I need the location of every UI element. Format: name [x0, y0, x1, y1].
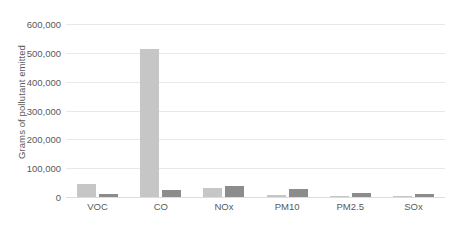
bar: [415, 194, 434, 197]
x-tick-label: PM10: [256, 201, 319, 217]
bar-group: [382, 24, 445, 197]
bar: [330, 196, 349, 197]
x-tick-label: CO: [129, 201, 192, 217]
bar: [162, 190, 181, 197]
bar-group: [66, 24, 129, 197]
bar: [99, 194, 118, 197]
bar: [352, 193, 371, 197]
bar: [289, 189, 308, 197]
bars-layer: [66, 24, 445, 197]
y-axis-title-text: Grams of pollutant emitted: [12, 0, 30, 205]
x-tick-label: VOC: [66, 201, 129, 217]
x-tick-label: SOx: [382, 201, 445, 217]
bar-chart: Grams of pollutant emitted VOCCONOxPM10P…: [0, 0, 462, 227]
bar: [140, 49, 159, 197]
bar: [203, 188, 222, 197]
y-tick-label: 0: [1, 192, 61, 203]
plot-area: [66, 24, 445, 197]
bar: [393, 196, 412, 197]
x-tick-label: NOx: [192, 201, 255, 217]
x-axis-labels: VOCCONOxPM10PM2.5SOx: [66, 201, 445, 217]
bar: [267, 195, 286, 197]
bar-group: [129, 24, 192, 197]
y-tick-label: 600,000: [1, 19, 61, 30]
y-tick-label: 100,000: [1, 163, 61, 174]
bar-group: [192, 24, 255, 197]
bar: [225, 186, 244, 197]
y-tick-label: 400,000: [1, 76, 61, 87]
x-tick-label: PM2.5: [319, 201, 382, 217]
y-tick-label: 500,000: [1, 47, 61, 58]
y-tick-label: 300,000: [1, 105, 61, 116]
bar-group: [319, 24, 382, 197]
gridline: [66, 197, 445, 198]
y-tick-label: 200,000: [1, 134, 61, 145]
y-axis-title: Grams of pollutant emitted: [11, 0, 29, 205]
bar-group: [256, 24, 319, 197]
bar: [77, 184, 96, 197]
